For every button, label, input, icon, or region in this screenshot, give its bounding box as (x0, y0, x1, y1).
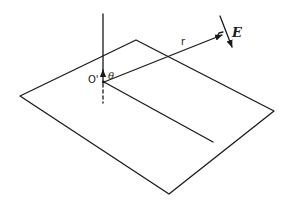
radius-label: r (181, 36, 186, 47)
field-diagram: O' θ r E (0, 0, 287, 205)
plane-projection-line (104, 82, 213, 142)
conducting-plane (20, 40, 274, 194)
field-vector (220, 16, 232, 47)
angle-label: θ (108, 70, 114, 81)
field-label: E (231, 25, 243, 40)
origin-label: O' (88, 74, 99, 85)
